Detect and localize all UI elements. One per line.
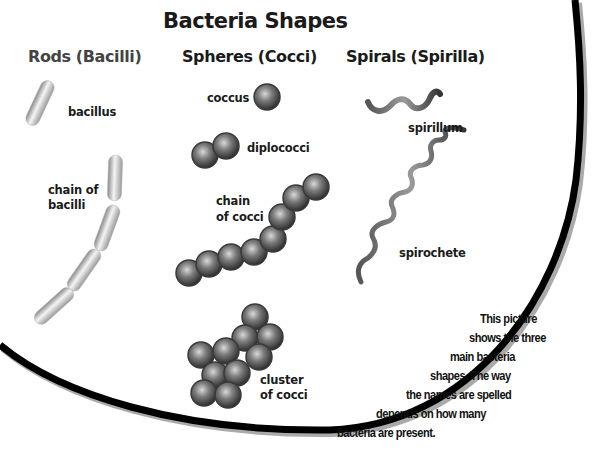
label-coccus: coccus bbox=[207, 92, 249, 105]
heading-spheres: Spheres (Cocci) bbox=[182, 48, 317, 66]
label-chain-of-cocci-2: of cocci bbox=[216, 211, 264, 224]
note-line-1: This picture bbox=[480, 310, 537, 329]
label-chain-of-bacilli-2: bacilli bbox=[48, 199, 85, 212]
label-chain-of-bacilli-1: chain of bbox=[48, 184, 98, 197]
coccus-shape bbox=[254, 84, 280, 110]
note-line-3: main bacteria bbox=[450, 348, 515, 367]
chain-of-cocci-shape bbox=[176, 174, 329, 286]
label-spirillum: spirillum bbox=[408, 122, 463, 135]
label-cluster-of-cocci-1: cluster bbox=[260, 374, 303, 387]
bacillus-shape bbox=[24, 78, 57, 127]
note-line-5: the names are spelled bbox=[406, 386, 511, 405]
label-bacillus: bacillus bbox=[68, 106, 116, 119]
diplococci-shape bbox=[192, 133, 239, 168]
label-spirochete: spirochete bbox=[399, 247, 466, 260]
heading-spirals: Spirals (Spirilla) bbox=[346, 48, 485, 66]
heading-rods: Rods (Bacilli) bbox=[28, 48, 141, 66]
spirillum-shape bbox=[368, 92, 440, 111]
label-diplococci: diplococci bbox=[247, 142, 310, 155]
note-line-7: bacteria are present. bbox=[337, 424, 435, 443]
note-line-6: depends on how many bbox=[376, 405, 486, 424]
label-cluster-of-cocci-2: of cocci bbox=[260, 389, 308, 402]
chain-of-bacilli-shape bbox=[31, 155, 122, 327]
note-line-4: shapes. The way bbox=[430, 367, 511, 386]
page-title: Bacteria Shapes bbox=[163, 10, 347, 33]
label-chain-of-cocci-1: chain bbox=[216, 195, 250, 208]
note-line-2: shows the three bbox=[469, 329, 546, 348]
